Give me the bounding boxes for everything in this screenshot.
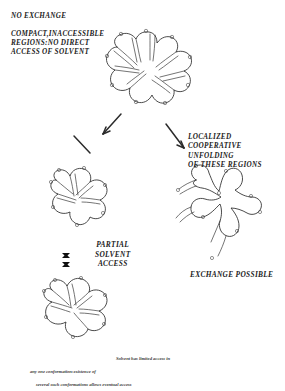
label-compact-inaccessible-regions: COMPACT,INACCESSIBLE REGIONS:NO DIRECT A… (11, 30, 104, 58)
label-no-exchange: NO EXCHANGE (11, 12, 66, 21)
structure-partial-upper (49, 166, 107, 226)
label-localized-cooperative-unfolding: LOCALIZED COOPERATIVE UNFOLDING OF THESE… (188, 133, 285, 170)
arrow-to-partial (103, 114, 121, 134)
label-exchange-possible: EXCHANGE POSSIBLE (190, 270, 273, 279)
conformation-series-ellipsis (62, 253, 70, 267)
arrow-to-compact (74, 136, 90, 153)
structure-compact-native (105, 29, 191, 104)
arrow-to-unfolded (166, 124, 184, 148)
figure-caption: Solvent has limited access in any one co… (14, 349, 272, 391)
caption-line-3: several such conformations allows eventu… (14, 382, 272, 389)
structure-unfolded-open (176, 164, 262, 259)
label-partial-solvent-access: PARTIAL SOLVENT ACCESS (95, 240, 131, 269)
caption-line-2: any one conformation:existence of (14, 369, 272, 376)
caption-line-1: Solvent has limited access in (14, 356, 272, 363)
structure-partial-lower (42, 276, 107, 338)
